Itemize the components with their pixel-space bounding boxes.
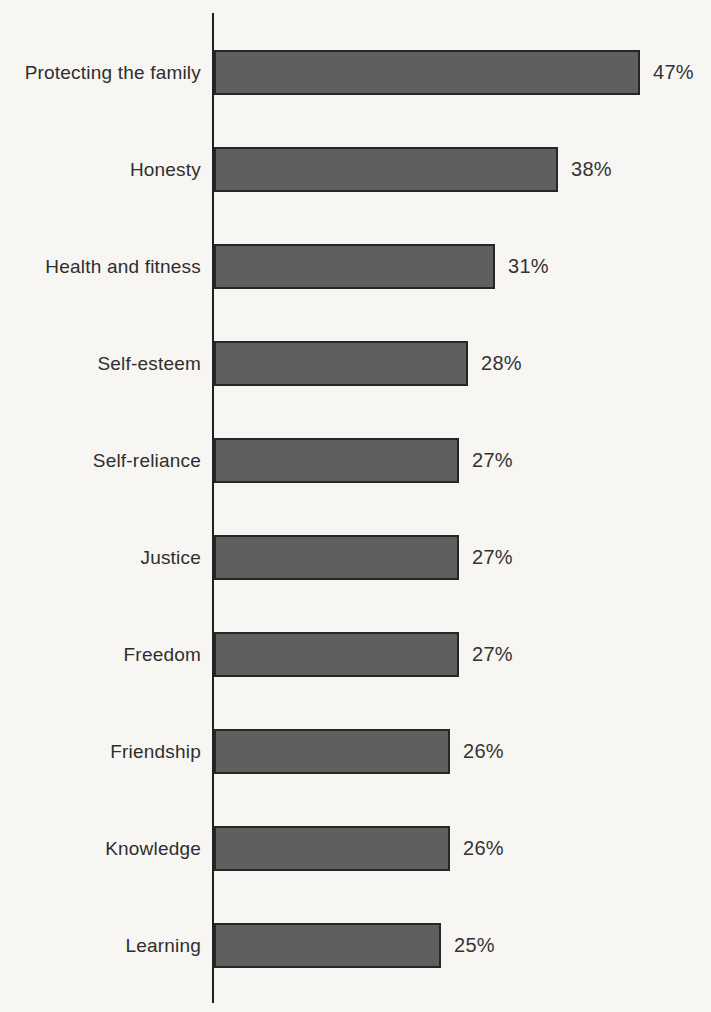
- chart-rows: Protecting the family 47% Honesty 38% He…: [0, 24, 711, 994]
- category-label: Learning: [0, 935, 214, 957]
- bar: [214, 244, 495, 289]
- value-label: 26%: [463, 837, 504, 860]
- bar-row: Knowledge 26%: [0, 800, 711, 897]
- bar: [214, 923, 441, 968]
- scanned-page: Protecting the family 47% Honesty 38% He…: [0, 0, 711, 1012]
- value-label: 25%: [454, 934, 495, 957]
- category-label: Friendship: [0, 741, 214, 763]
- bar-row: Freedom 27%: [0, 606, 711, 703]
- category-label: Self-esteem: [0, 353, 214, 375]
- value-label: 27%: [472, 643, 513, 666]
- bar: [214, 341, 468, 386]
- value-label: 47%: [653, 61, 694, 84]
- bar: [214, 50, 640, 95]
- category-label: Protecting the family: [0, 62, 214, 84]
- category-label: Health and fitness: [0, 256, 214, 278]
- bar-row: Justice 27%: [0, 509, 711, 606]
- bar: [214, 632, 459, 677]
- bar-row: Learning 25%: [0, 897, 711, 994]
- category-label: Honesty: [0, 159, 214, 181]
- category-label: Self-reliance: [0, 450, 214, 472]
- value-label: 31%: [508, 255, 549, 278]
- bar-row: Honesty 38%: [0, 121, 711, 218]
- bar: [214, 438, 459, 483]
- value-label: 38%: [571, 158, 612, 181]
- bar-row: Self-esteem 28%: [0, 315, 711, 412]
- bar: [214, 729, 450, 774]
- category-label: Justice: [0, 547, 214, 569]
- bar-row: Friendship 26%: [0, 703, 711, 800]
- value-label: 26%: [463, 740, 504, 763]
- bar-row: Protecting the family 47%: [0, 24, 711, 121]
- bar-row: Self-reliance 27%: [0, 412, 711, 509]
- value-label: 27%: [472, 449, 513, 472]
- bar: [214, 826, 450, 871]
- category-label: Freedom: [0, 644, 214, 666]
- bar: [214, 147, 558, 192]
- bar-row: Health and fitness 31%: [0, 218, 711, 315]
- bar-chart: Protecting the family 47% Honesty 38% He…: [0, 0, 711, 1012]
- value-label: 27%: [472, 546, 513, 569]
- category-label: Knowledge: [0, 838, 214, 860]
- value-label: 28%: [481, 352, 522, 375]
- bar: [214, 535, 459, 580]
